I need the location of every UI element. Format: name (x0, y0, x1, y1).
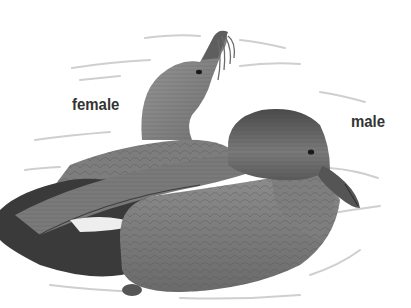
duck-drawing (0, 0, 411, 308)
male-label: male (351, 112, 385, 132)
duck-illustration: female male (0, 0, 411, 308)
female-label: female (72, 95, 119, 115)
